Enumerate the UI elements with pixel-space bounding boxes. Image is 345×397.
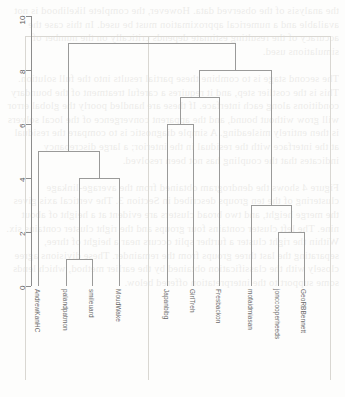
- y-axis-line: [31, 16, 32, 286]
- leaf-label-9: GeoRBBennett: [300, 289, 307, 333]
- leaf-label-8: jonccooperheeds: [274, 289, 281, 339]
- y-tick-mark-6: [26, 124, 31, 125]
- y-tick-label-2: 2: [18, 232, 27, 254]
- y-tick-label-0: 0: [18, 286, 27, 308]
- leaf-label-0: AndrewKanHC: [34, 289, 41, 332]
- leaf-label-4: Japanbibg: [163, 289, 170, 319]
- y-tick-mark-4: [26, 178, 31, 179]
- leaf-label-1: palandpatmon: [62, 289, 69, 331]
- leaf-label-6: Fresbackon: [215, 289, 222, 323]
- y-tick-label-8: 8: [18, 70, 27, 92]
- leaf-label-3: MoudWake: [115, 289, 122, 322]
- y-tick-label-6: 6: [18, 124, 27, 146]
- dendrogram-links: [38, 43, 304, 286]
- scanned-dendrogram-page: the analysis of the observed data. Howev…: [0, 0, 345, 397]
- y-tick-mark-8: [26, 70, 31, 71]
- y-tick-mark-0: [26, 286, 31, 287]
- y-tick-label-4: 4: [18, 178, 27, 200]
- y-tick-label-10: 10: [18, 16, 27, 38]
- leaf-label-2: smileuard: [88, 289, 95, 318]
- y-tick-mark-10: [26, 16, 31, 17]
- dendrogram-tree: [0, 0, 345, 397]
- leaf-label-7: mofaidmiasan: [247, 289, 254, 330]
- y-tick-mark-2: [26, 232, 31, 233]
- leaf-label-5: GirlTreh: [189, 289, 196, 313]
